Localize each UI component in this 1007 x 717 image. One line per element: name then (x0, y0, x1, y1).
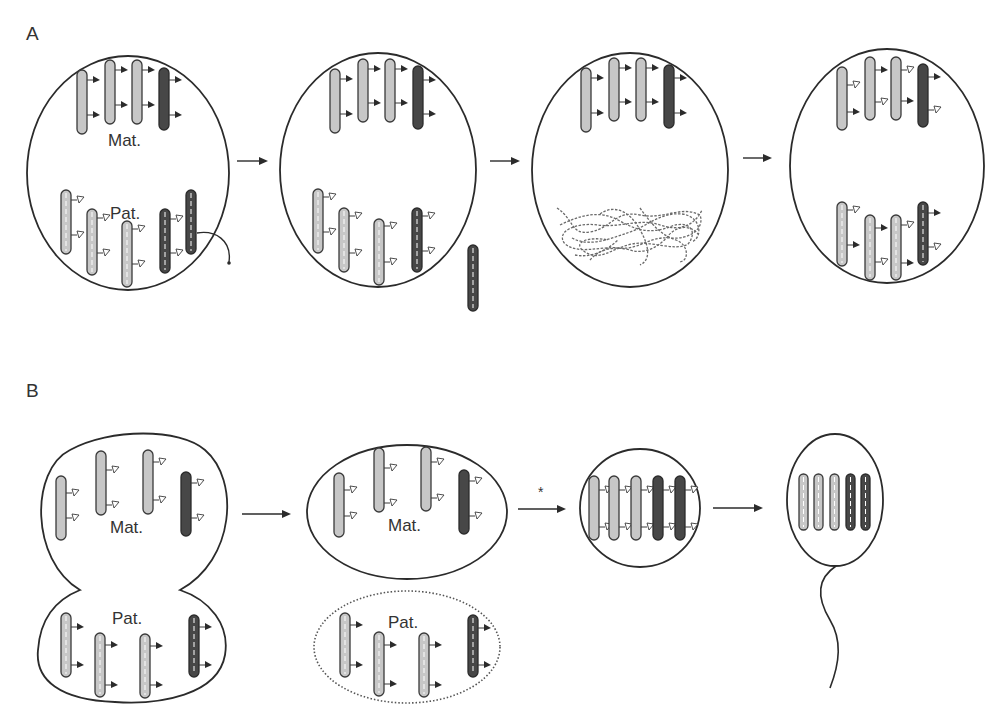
figure-canvas: A Mat. Pat. (0, 0, 1007, 717)
ejected-chromosome (468, 245, 478, 311)
arrow-a3-a4 (743, 154, 772, 162)
cell-b3 (580, 449, 700, 567)
cell-a1: Mat. Pat. (27, 56, 231, 290)
cell-b1: Mat. Pat. (38, 434, 227, 703)
cell-b2-paternal-remnant: Pat. (314, 591, 500, 703)
maternal-label: Mat. (388, 516, 421, 535)
cell-a4 (790, 49, 984, 283)
panel-label-b: B (26, 380, 39, 401)
maternal-label: Mat. (108, 131, 141, 150)
arrow-a1-a2 (237, 157, 268, 165)
arrow-a2-a3 (490, 157, 520, 165)
cell-b2: Mat. (307, 445, 507, 579)
asterisk-annotation: * (538, 484, 544, 500)
cell-a2 (280, 53, 478, 311)
arrow-b3-b4 (713, 504, 763, 512)
arrow-b1-b2 (242, 510, 291, 518)
paternal-label: Pat. (110, 204, 140, 223)
sperm-tail (821, 566, 839, 688)
panel-label-a: A (26, 23, 39, 44)
maternal-label: Mat. (110, 518, 143, 537)
arrow-b2-b3: * (518, 484, 566, 513)
paternal-label: Pat. (112, 609, 142, 628)
paternal-label: Pat. (388, 613, 418, 632)
cell-b4-sperm (787, 434, 883, 688)
cell-a3 (532, 53, 728, 287)
